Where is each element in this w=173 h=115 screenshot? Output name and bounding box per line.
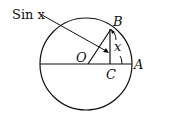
point-c-label: C xyxy=(106,67,116,82)
angle-x-label: x xyxy=(114,39,122,54)
angle-arc xyxy=(120,56,122,64)
sin-x-label: Sin x xyxy=(12,7,46,22)
point-o-label: O xyxy=(76,50,87,65)
leader-arrowhead xyxy=(103,48,109,53)
point-b-label: B xyxy=(112,14,123,29)
unit-circle-diagram: Sin x O B C A x xyxy=(0,0,173,115)
point-a-label: A xyxy=(133,57,143,72)
radius-ob xyxy=(88,29,111,64)
